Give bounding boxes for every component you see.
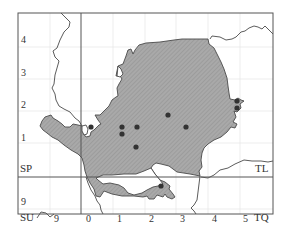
record-dot (88, 124, 93, 129)
grid-square-sp: SP (20, 163, 32, 173)
grid-square-su: SU (20, 212, 34, 222)
grid-square-tl: TL (255, 163, 268, 173)
record-dot (234, 98, 239, 103)
grid-label-bottom-3: 3 (180, 214, 185, 224)
record-dot (119, 124, 124, 129)
record-dot (234, 105, 239, 110)
record-dot (165, 112, 170, 117)
grid-label-bottom-0: 0 (86, 214, 91, 224)
grid-square-tq: TQ (254, 212, 269, 222)
distribution-map (0, 0, 285, 236)
record-dot (158, 183, 163, 188)
grid-label-left-4: 4 (21, 35, 26, 45)
record-dot (119, 131, 124, 136)
grid-label-left-2: 2 (21, 100, 26, 110)
grid-label-bottom-5: 5 (243, 214, 248, 224)
record-dot (133, 144, 138, 149)
lake-outline (82, 125, 88, 135)
grid-label-bottom-1: 1 (117, 214, 122, 224)
record-dot (134, 124, 139, 129)
grid-label-left-1: 1 (21, 133, 26, 143)
grid-label-bottom-9: 9 (54, 214, 59, 224)
record-dot (183, 124, 188, 129)
grid-label-left-9: 9 (21, 197, 26, 207)
grid-label-left-3: 3 (21, 68, 26, 78)
grid-label-bottom-2: 2 (149, 214, 154, 224)
grid-label-bottom-4: 4 (212, 214, 217, 224)
